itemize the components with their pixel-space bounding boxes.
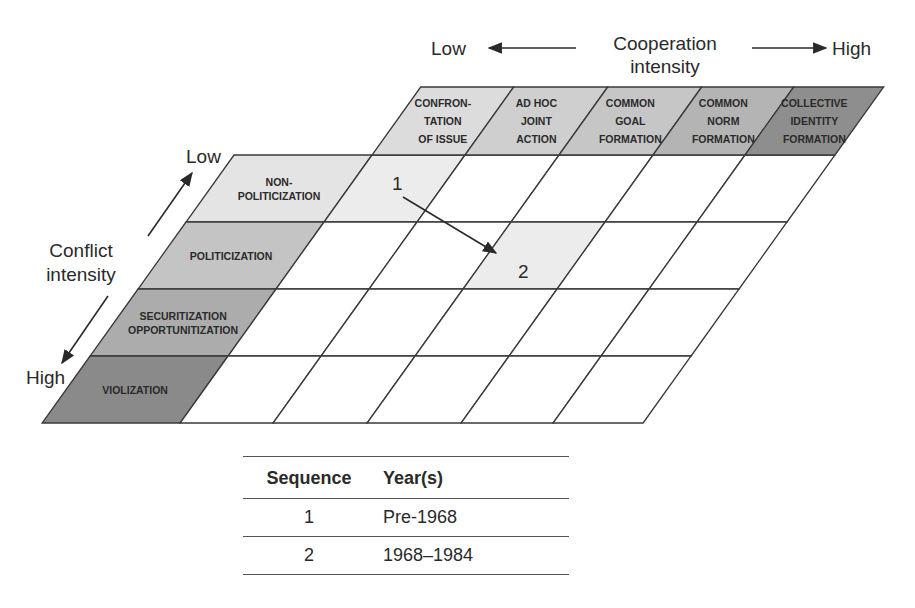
table-header-row: Sequence Year(s) (243, 457, 569, 499)
conflict-axis-title-line1: Conflict (49, 240, 113, 261)
matrix-grid: NON-POLITICIZATIONPOLITICIZATIONSECURITI… (42, 87, 884, 423)
sequence-cell: 2 (243, 537, 375, 575)
column-header-sequence: Sequence (243, 457, 375, 499)
row-label: POLITICIZATION (190, 250, 273, 262)
cooperation-axis-title-line2: intensity (630, 56, 700, 77)
conflict-high-label: High (26, 367, 65, 388)
column-header-years: Year(s) (375, 457, 569, 499)
sequence-point-1: 1 (392, 173, 403, 194)
years-cell: Pre-1968 (375, 499, 569, 537)
row-label: VIOLIZATION (102, 384, 168, 396)
cooperation-high-label: High (832, 38, 871, 59)
sequence-point-2: 2 (518, 261, 529, 282)
table-row: 1 Pre-1968 (243, 499, 569, 537)
cooperation-low-label: Low (431, 38, 466, 59)
cooperation-axis-title-line1: Cooperation (613, 33, 717, 54)
sequence-cell: 1 (243, 499, 375, 537)
conflict-axis-title-line2: intensity (46, 264, 116, 285)
conflict-low-label: Low (186, 146, 221, 167)
column-label: AD HOCJOINTACTION (516, 97, 558, 145)
column-label: COLLECTIVEIDENTITYFORMATION (781, 97, 848, 145)
table-row: 2 1968–1984 (243, 537, 569, 575)
sequence-table: Sequence Year(s) 1 Pre-1968 2 1968–1984 (243, 456, 569, 575)
years-cell: 1968–1984 (375, 537, 569, 575)
cooperation-axis: Low Cooperation intensity High (431, 33, 871, 77)
